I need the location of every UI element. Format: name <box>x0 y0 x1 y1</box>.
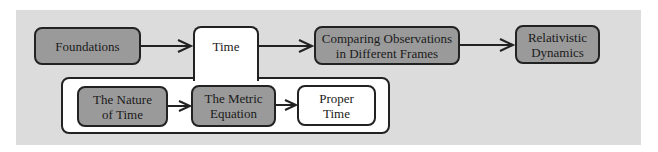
arrows <box>0 0 658 152</box>
